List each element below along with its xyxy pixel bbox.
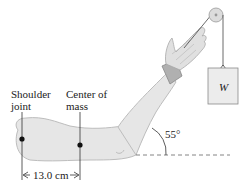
hand <box>165 28 206 70</box>
center-of-mass-point <box>77 142 82 147</box>
angle-arc <box>152 128 166 155</box>
shoulder-joint-label-line2: joint <box>11 100 31 112</box>
shoulder-joint-point <box>19 136 24 141</box>
distance-label: 13.0 cm <box>33 169 68 181</box>
weight-label: W <box>219 81 228 93</box>
upper-arm <box>16 118 136 161</box>
pulley-axle <box>215 14 218 17</box>
arm-pulley-diagram: Shoulder joint Center of mass 13.0 cm 55… <box>0 0 245 196</box>
shoulder-joint-label-line1: Shoulder <box>11 88 51 100</box>
angle-label: 55° <box>165 128 180 140</box>
center-of-mass-label-line1: Center of <box>66 88 107 100</box>
center-of-mass-label-line2: mass <box>66 100 88 112</box>
